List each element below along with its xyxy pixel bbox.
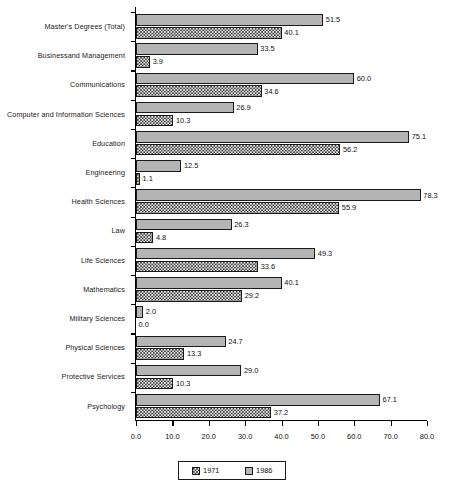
y-axis-tick xyxy=(131,158,136,159)
bar-group: 24.713.3 xyxy=(136,333,427,362)
category-label: Protective Services xyxy=(0,362,130,391)
legend-label-1986: 1986 xyxy=(256,467,272,474)
legend-label-1971: 1971 xyxy=(203,467,219,474)
bar-group: 75.156.2 xyxy=(136,129,427,158)
bar-value-label: 33.5 xyxy=(260,45,274,52)
bar-row-1971: 13.3 xyxy=(136,348,201,360)
bar-1986 xyxy=(136,73,354,85)
x-axis-tick-label: 10.0 xyxy=(165,432,179,441)
bar-value-label: 24.7 xyxy=(228,338,242,345)
bar-1971 xyxy=(136,173,140,185)
bar-1986 xyxy=(136,14,323,26)
bar-row-1971: 10.3 xyxy=(136,115,190,127)
bar-group: 26.34.8 xyxy=(136,217,427,246)
bar-1971 xyxy=(136,378,173,390)
bar-row-1971: 4.8 xyxy=(136,232,166,244)
bar-group: 78.355.9 xyxy=(136,187,427,216)
bar-value-label: 1.1 xyxy=(143,175,153,182)
bar-value-label: 67.1 xyxy=(383,396,397,403)
bar-1986 xyxy=(136,160,181,172)
bar-1971 xyxy=(136,232,153,244)
plot-area: 51.540.133.53.960.034.626.910.375.156.21… xyxy=(136,12,427,421)
bar-row-1986: 40.1 xyxy=(136,277,299,289)
bar-value-label: 56.2 xyxy=(343,146,357,153)
bar-1986 xyxy=(136,219,232,231)
legend-item-1986: 1986 xyxy=(245,467,273,475)
bar-value-label: 29.2 xyxy=(245,292,259,299)
category-label: Life Sciences xyxy=(0,246,130,275)
bar-1971 xyxy=(136,144,340,156)
bar-row-1986: 26.3 xyxy=(136,219,249,231)
bar-row-1971: 55.9 xyxy=(136,202,356,214)
x-axis-tick xyxy=(172,421,173,426)
x-axis-tick xyxy=(136,421,137,426)
bar-value-label: 40.1 xyxy=(284,29,298,36)
y-axis-tick xyxy=(131,129,136,130)
bar-row-1986: 60.0 xyxy=(136,73,371,85)
bar-1971 xyxy=(136,261,258,273)
bar-row-1986: 78.3 xyxy=(136,189,438,201)
bar-chart: Master's Degrees (Total)Businessand Mana… xyxy=(0,0,450,500)
bar-1971 xyxy=(136,56,150,68)
x-axis-tick xyxy=(282,421,283,426)
bar-1986 xyxy=(136,336,226,348)
bar-group: 12.51.1 xyxy=(136,158,427,187)
category-label: Computer and Information Sciences xyxy=(0,100,130,129)
bar-1986 xyxy=(136,43,258,55)
bar-1971 xyxy=(136,407,271,419)
x-axis-tick-label: 50.0 xyxy=(311,432,325,441)
bar-1986 xyxy=(136,248,315,260)
bar-row-1971: 3.9 xyxy=(136,56,163,68)
x-axis-tick xyxy=(209,421,210,426)
bar-row-1971: 0.0 xyxy=(136,319,149,331)
bar-row-1971: 40.1 xyxy=(136,27,299,39)
checkered-swatch-icon xyxy=(192,467,200,475)
bar-1986 xyxy=(136,306,143,318)
category-label: Health Sciences xyxy=(0,187,130,216)
bar-value-label: 55.9 xyxy=(342,204,356,211)
category-label: Military Sciences xyxy=(0,304,130,333)
bar-value-label: 26.3 xyxy=(234,221,248,228)
x-axis-tick xyxy=(427,421,428,426)
x-axis-tick xyxy=(318,421,319,426)
bar-group: 26.910.3 xyxy=(136,100,427,129)
category-axis-labels: Master's Degrees (Total)Businessand Mana… xyxy=(0,12,130,421)
category-label: Engineering xyxy=(0,158,130,187)
bar-value-label: 10.3 xyxy=(176,380,190,387)
bar-group: 60.034.6 xyxy=(136,70,427,99)
bar-row-1971: 33.6 xyxy=(136,261,275,273)
bar-row-1971: 1.1 xyxy=(136,173,153,185)
bar-1971 xyxy=(136,290,242,302)
bar-group: 33.53.9 xyxy=(136,41,427,70)
bar-value-label: 49.3 xyxy=(318,250,332,257)
bar-row-1986: 67.1 xyxy=(136,394,397,406)
bar-1971 xyxy=(136,202,339,214)
bar-value-label: 75.1 xyxy=(412,133,426,140)
bar-1986 xyxy=(136,102,234,114)
x-axis-tick-label: 20.0 xyxy=(202,432,216,441)
bar-value-label: 3.9 xyxy=(153,58,163,65)
x-axis-tick-label: 40.0 xyxy=(274,432,288,441)
bar-row-1986: 26.9 xyxy=(136,102,251,114)
bar-value-label: 10.3 xyxy=(176,117,190,124)
bar-value-label: 4.8 xyxy=(156,234,166,241)
bar-value-label: 60.0 xyxy=(357,75,371,82)
bar-1971 xyxy=(136,27,282,39)
category-label: Physical Sciences xyxy=(0,333,130,362)
bar-1986 xyxy=(136,189,421,201)
bar-row-1971: 34.6 xyxy=(136,85,279,97)
category-label: Master's Degrees (Total) xyxy=(0,12,130,41)
category-label: Businessand Management xyxy=(0,41,130,70)
y-axis-tick xyxy=(131,100,136,101)
x-axis-tick xyxy=(391,421,392,426)
y-axis-tick xyxy=(131,275,136,276)
category-label: Psychology xyxy=(0,392,130,421)
y-axis-tick xyxy=(131,187,136,188)
y-axis-tick xyxy=(131,392,136,393)
x-axis-tick-label: 80.0 xyxy=(420,432,434,441)
bar-1986 xyxy=(136,394,380,406)
bar-1971 xyxy=(136,348,184,360)
bar-row-1986: 51.5 xyxy=(136,14,340,26)
bar-group: 2.00.0 xyxy=(136,304,427,333)
bar-row-1986: 49.3 xyxy=(136,248,332,260)
